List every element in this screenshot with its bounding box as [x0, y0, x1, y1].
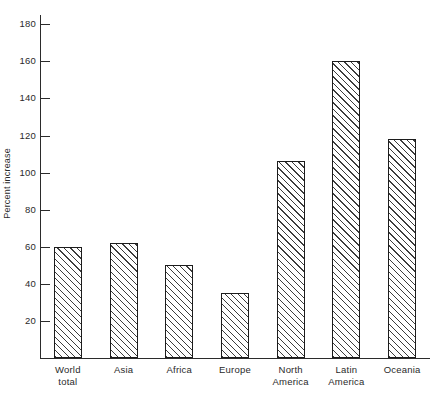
y-tick-label: 60 [10, 241, 36, 252]
x-label-line: America [319, 376, 375, 388]
x-label-line: America [263, 376, 319, 388]
bar-world-total [54, 247, 82, 358]
x-label-line: Europe [207, 364, 263, 376]
x-label-latin-america: LatinAmerica [319, 364, 375, 387]
x-label-line: Oceania [374, 364, 430, 376]
x-label-north-america: NorthAmerica [263, 364, 319, 387]
y-tick-label: 160 [10, 55, 36, 66]
y-tick-label: 140 [10, 92, 36, 103]
bar-asia [110, 243, 138, 358]
y-tick-label: 120 [10, 130, 36, 141]
y-tick-label: 40 [10, 278, 36, 289]
x-label-line: North [263, 364, 319, 376]
bar-africa [165, 265, 193, 358]
x-label-europe: Europe [207, 364, 263, 376]
bar-chart: Percent increase 20406080100120140160180… [0, 0, 437, 394]
y-tick-label: 80 [10, 204, 36, 215]
y-tick-label: 180 [10, 18, 36, 29]
x-label-line: total [40, 376, 96, 388]
bar-north-america [277, 161, 305, 358]
x-label-oceania: Oceania [374, 364, 430, 376]
x-label-asia: Asia [96, 364, 152, 376]
x-label-africa: Africa [151, 364, 207, 376]
x-label-line: World [40, 364, 96, 376]
x-label-world-total: Worldtotal [40, 364, 96, 387]
x-axis-line [40, 358, 430, 359]
x-label-line: Asia [96, 364, 152, 376]
bar-europe [221, 293, 249, 358]
y-tick-label: 100 [10, 167, 36, 178]
x-label-line: Africa [151, 364, 207, 376]
y-tick-label: 20 [10, 315, 36, 326]
x-label-line: Latin [319, 364, 375, 376]
plot-area [40, 15, 430, 358]
bar-oceania [388, 139, 416, 358]
bar-latin-america [332, 61, 360, 358]
